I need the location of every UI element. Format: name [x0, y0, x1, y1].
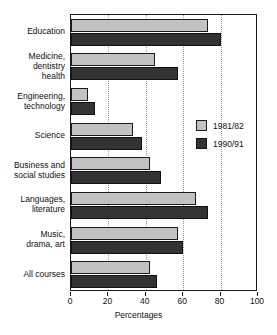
category-label: Medicine, dentistry health: [29, 51, 65, 81]
x-tick-label-60: 60: [177, 296, 186, 306]
bar: [71, 137, 142, 150]
bar-group: [71, 157, 256, 184]
bar: [71, 192, 196, 205]
bar-group: [71, 192, 256, 219]
category-label: Engineering, technology: [17, 91, 65, 111]
legend-item: 1990/91: [196, 138, 244, 149]
bar-group: [71, 261, 256, 288]
category-label: All courses: [23, 269, 65, 279]
legend-swatch: [196, 138, 207, 149]
bar: [71, 102, 95, 115]
legend-label: 1981/82: [213, 121, 244, 131]
bar-group: [71, 53, 256, 80]
x-axis-title: Percentages: [0, 310, 277, 320]
bar: [71, 123, 133, 136]
bar: [71, 53, 155, 66]
bar: [71, 171, 161, 184]
category-label: Languages, literature: [21, 194, 65, 214]
legend: 1981/821990/91: [196, 120, 244, 156]
bar-group: [71, 88, 256, 115]
category-label: Education: [27, 26, 65, 36]
category-label: Science: [35, 130, 65, 140]
bar: [71, 88, 88, 101]
bar-chart: EducationMedicine, dentistry healthEngin…: [0, 0, 277, 335]
bar-group: [71, 19, 256, 46]
x-tick-label-80: 80: [215, 296, 224, 306]
category-label: Business and social studies: [14, 160, 65, 180]
bar-group: [71, 227, 256, 254]
bar: [71, 241, 183, 254]
legend-label: 1990/91: [213, 139, 244, 149]
legend-item: 1981/82: [196, 120, 244, 131]
bar: [71, 227, 178, 240]
bar: [71, 19, 208, 32]
bar: [71, 261, 150, 274]
category-label: Music, drama, art: [26, 229, 65, 249]
legend-swatch: [196, 120, 207, 131]
x-tick-label-100: 100: [250, 296, 264, 306]
x-tick-label-0: 0: [68, 296, 73, 306]
bar: [71, 33, 221, 46]
bar: [71, 157, 150, 170]
bar: [71, 275, 157, 288]
x-tick-label-20: 20: [103, 296, 112, 306]
x-tick-label-40: 40: [140, 296, 149, 306]
bar: [71, 206, 208, 219]
bar: [71, 67, 178, 80]
